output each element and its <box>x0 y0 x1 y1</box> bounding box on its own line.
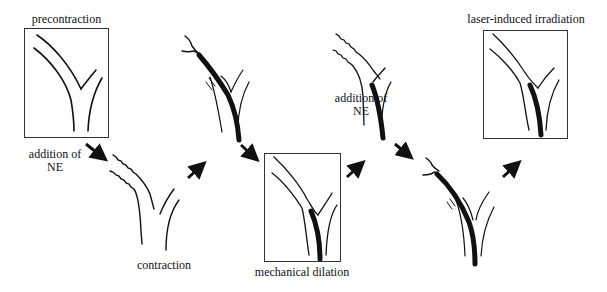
stage-label-mechanical-dilation: mechanical dilation <box>252 266 352 279</box>
stage-label-laser-irradiation: laser-induced irradiation <box>466 13 586 26</box>
arrow-up-right-icon <box>503 166 515 177</box>
annotation-line2: NE <box>324 105 398 118</box>
stage-label-contraction: contraction <box>124 259 204 272</box>
frame-mechanical-dilation <box>264 153 341 262</box>
vessel-with-balloon <box>182 36 249 140</box>
arrow-up-right-icon <box>347 166 359 177</box>
arrow-up-right-icon <box>188 167 200 178</box>
annotation-addition-ne-2: addition of NE <box>324 92 398 118</box>
vessel-re-contraction <box>333 34 391 138</box>
annotation-addition-ne-1: addition of NE <box>18 148 92 174</box>
annotation-line2: NE <box>18 161 92 174</box>
frame-precontraction <box>24 28 109 138</box>
arrow-down-right-icon <box>241 145 253 156</box>
stage-label-precontraction: precontraction <box>24 13 109 26</box>
frame-laser-irradiation <box>483 30 568 139</box>
vessel-with-laser-balloon <box>423 158 494 264</box>
vessel-contraction <box>110 155 179 250</box>
arrow-down-right-icon <box>395 144 407 154</box>
